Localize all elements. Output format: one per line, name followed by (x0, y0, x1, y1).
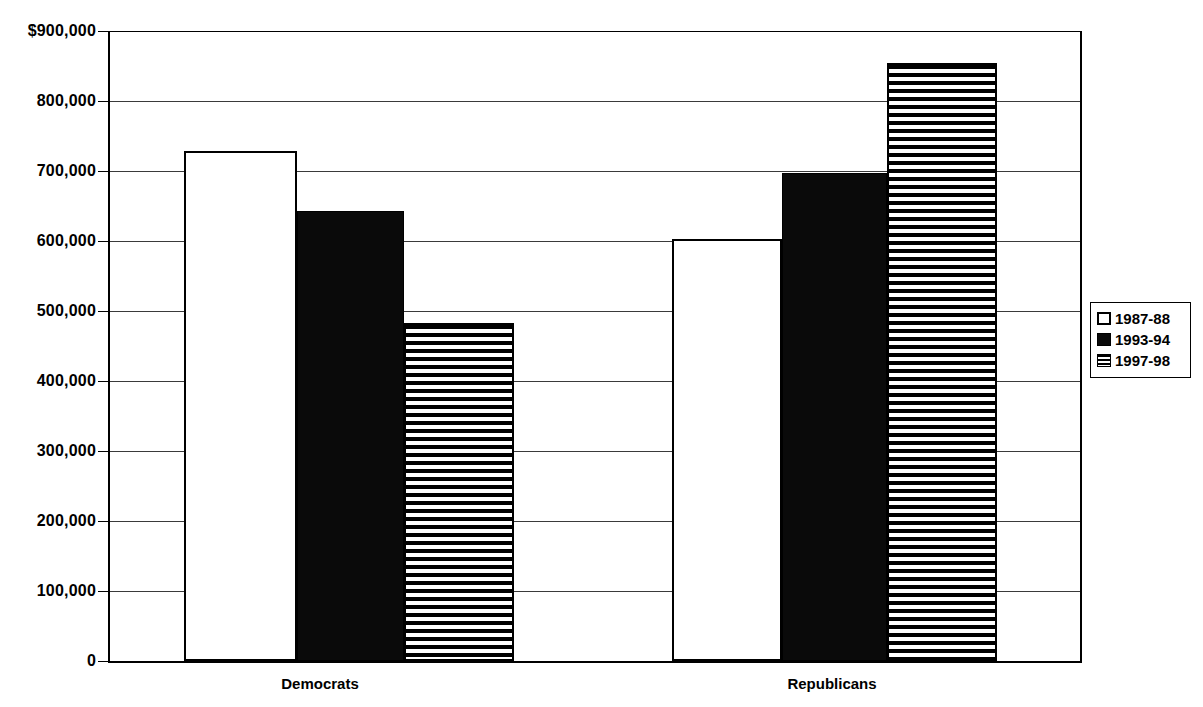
y-axis: $900,000 800,000 700,000 600,000 500,000… (0, 0, 96, 707)
y-tick-label: 500,000 (37, 303, 96, 319)
y-tick-label: 700,000 (37, 163, 96, 179)
y-tick-label: 600,000 (37, 233, 96, 249)
bar-republicans-1987-88 (672, 239, 782, 661)
bar-chart: $900,000 800,000 700,000 600,000 500,000… (0, 0, 1203, 707)
y-tick-mark (98, 591, 108, 592)
x-category-label-democrats: Democrats (240, 676, 400, 691)
y-tick-mark (98, 171, 108, 172)
y-tick-label: $900,000 (28, 23, 96, 39)
y-tick-mark (98, 381, 108, 382)
bar-democrats-1987-88 (184, 151, 297, 661)
y-tick-mark (98, 521, 108, 522)
bar-democrats-1997-98 (404, 323, 514, 661)
x-category-label-republicans: Republicans (752, 676, 912, 691)
legend-item: 1997-98 (1097, 351, 1185, 370)
bar-democrats-1993-94 (297, 211, 404, 661)
y-tick-mark (98, 241, 108, 242)
bar-republicans-1993-94 (782, 173, 887, 661)
y-tick-mark (98, 31, 108, 32)
y-tick-mark (98, 101, 108, 102)
legend-swatch-striped-icon (1097, 354, 1111, 367)
y-tick-label: 400,000 (37, 373, 96, 389)
y-tick-label: 100,000 (37, 583, 96, 599)
legend-label: 1993-94 (1115, 332, 1170, 347)
legend-swatch-black-icon (1097, 333, 1111, 346)
legend-label: 1987-88 (1115, 311, 1170, 326)
bar-republicans-1997-98 (887, 63, 997, 661)
y-tick-label: 300,000 (37, 443, 96, 459)
plot-area (108, 31, 1082, 663)
y-tick-mark (98, 451, 108, 452)
y-tick-mark (98, 661, 108, 662)
y-tick-label: 800,000 (37, 93, 96, 109)
legend-item: 1987-88 (1097, 309, 1185, 328)
legend-swatch-white-icon (1097, 312, 1111, 325)
y-tick-label: 0 (87, 653, 96, 669)
legend-item: 1993-94 (1097, 330, 1185, 349)
y-tick-mark (98, 311, 108, 312)
y-tick-label: 200,000 (37, 513, 96, 529)
legend: 1987-88 1993-94 1997-98 (1090, 302, 1191, 378)
legend-label: 1997-98 (1115, 353, 1170, 368)
